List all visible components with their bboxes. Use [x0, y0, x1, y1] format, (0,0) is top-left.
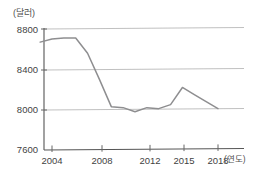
gridline-8400 — [44, 69, 244, 71]
line-chart: (달러) (연도) 8800 8400 8000 7600 2004 2008 … — [0, 0, 260, 181]
plot-area — [0, 0, 260, 181]
gridline-8800 — [44, 28, 244, 30]
x-axis — [44, 149, 244, 151]
x-axis-ticks — [52, 144, 218, 152]
data-series-line — [40, 38, 218, 112]
gridlines — [44, 28, 244, 111]
